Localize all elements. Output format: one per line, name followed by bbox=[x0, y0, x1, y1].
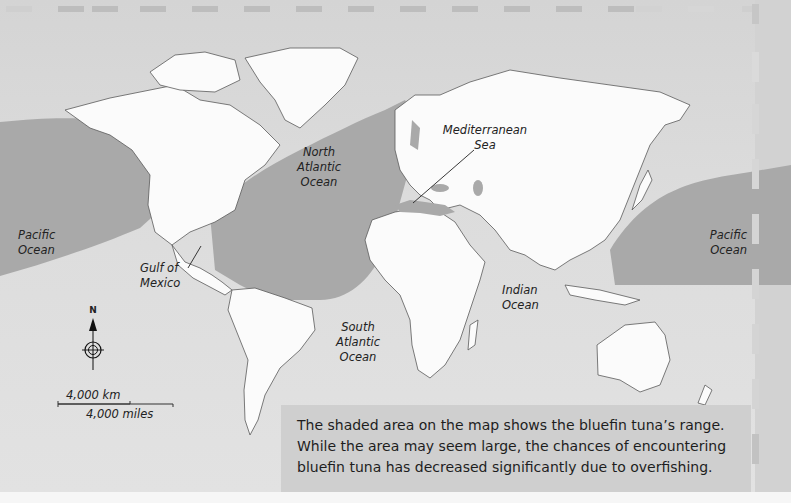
label-line: Ocean bbox=[502, 298, 548, 313]
land-madagascar bbox=[468, 320, 478, 350]
label-line: Ocean bbox=[18, 243, 78, 258]
scale-km-label: 4,000 km bbox=[66, 388, 120, 402]
label-line: Gulf of bbox=[140, 261, 200, 276]
label-line: North bbox=[288, 145, 350, 160]
land-se-asia-islands bbox=[565, 285, 640, 305]
label-north-atlantic: North Atlantic Ocean bbox=[288, 145, 350, 190]
land-greenland bbox=[245, 48, 358, 128]
label-line: Sea bbox=[435, 138, 535, 153]
caption-line: While the area may seem large, the chanc… bbox=[297, 436, 747, 457]
caption-text: The shaded area on the map shows the blu… bbox=[297, 415, 747, 478]
caspian-sea bbox=[473, 180, 483, 196]
land-new-zealand bbox=[698, 385, 712, 405]
right-dashed-border bbox=[750, 4, 760, 492]
land-australia bbox=[597, 322, 670, 392]
caption-line: The shaded area on the map shows the blu… bbox=[297, 415, 747, 436]
label-line: Ocean bbox=[288, 175, 350, 190]
range-pacific-east bbox=[610, 165, 791, 285]
label-line: South bbox=[328, 320, 388, 335]
label-south-atlantic: South Atlantic Ocean bbox=[328, 320, 388, 365]
label-line: Atlantic bbox=[328, 335, 388, 350]
page-bottom-band bbox=[0, 492, 791, 503]
label-pacific-west: Pacific Ocean bbox=[18, 228, 78, 258]
land-arctic-islands bbox=[150, 52, 240, 92]
label-gulf-of-mexico: Gulf of Mexico bbox=[140, 261, 200, 291]
label-line: Pacific bbox=[687, 228, 747, 243]
scale-miles-label: 4,000 miles bbox=[86, 407, 153, 421]
label-indian-ocean: Indian Ocean bbox=[502, 283, 548, 313]
caption-box: The shaded area on the map shows the blu… bbox=[281, 405, 751, 492]
label-line: Indian bbox=[502, 283, 548, 298]
caption-line: bluefin tuna has decreased significantly… bbox=[297, 457, 747, 478]
compass-rose-icon bbox=[82, 318, 104, 370]
label-line: Pacific bbox=[18, 228, 78, 243]
top-dashed-border bbox=[0, 4, 791, 14]
map-panel: North Atlantic Ocean Mediterranean Sea P… bbox=[0, 0, 791, 492]
label-line: Mexico bbox=[140, 276, 200, 291]
compass-north-label: N bbox=[86, 303, 100, 318]
label-line: Ocean bbox=[328, 350, 388, 365]
label-pacific-east: Pacific Ocean bbox=[687, 228, 747, 258]
label-line: Atlantic bbox=[288, 160, 350, 175]
label-line: Mediterranean bbox=[435, 123, 535, 138]
label-line: Ocean bbox=[687, 243, 747, 258]
label-mediterranean: Mediterranean Sea bbox=[435, 123, 535, 153]
